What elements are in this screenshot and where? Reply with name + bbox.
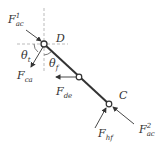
label-theta-t: θt [21,50,30,64]
node-label-c: C [119,90,127,101]
node-label-d: D [56,33,65,44]
label-f-ca: Fca [17,70,33,84]
force-arrow-f-hf [95,108,106,128]
force-arrow-f-ca [31,47,43,67]
force-arrow-f-ac1 [26,30,41,41]
label-f-hf: Fhf [98,128,113,142]
angle-arc-theta-f [44,52,51,55]
label-f-de: Fde [56,86,72,100]
member-bar [44,44,109,104]
label-theta-f: θf [49,58,58,72]
node-middle [76,74,82,80]
label-f-ac2: F2ac [139,124,151,135]
node-c [106,101,112,107]
node-d [41,41,47,47]
angle-arc-theta-t [34,44,38,52]
force-arrow-f-ac2 [113,107,134,124]
label-f-ac1: F1ac [8,14,20,25]
